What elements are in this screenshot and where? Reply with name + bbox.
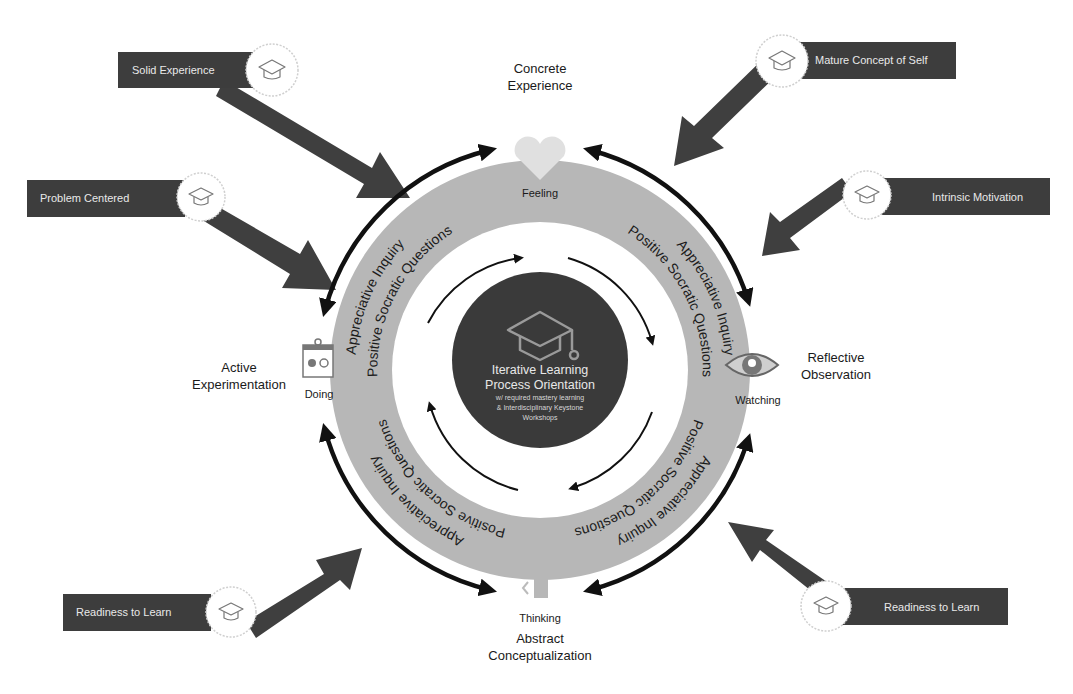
svg-text:Workshops: Workshops [523, 414, 558, 422]
svg-text:Experience: Experience [507, 78, 572, 93]
input-solid-experience: Solid Experience [118, 44, 298, 96]
svg-text:Conceptualization: Conceptualization [488, 648, 591, 663]
clipboard-icon [303, 339, 333, 377]
arrow-intrinsic-motivation [762, 178, 852, 256]
input-readiness-right: Readiness to Learn [801, 581, 1008, 631]
input-mature-concept: Mature Concept of Self [756, 35, 956, 87]
svg-text:Readiness to Learn: Readiness to Learn [884, 601, 979, 613]
input-readiness-left: Readiness to Learn [63, 587, 256, 637]
svg-text:Intrinsic Motivation: Intrinsic Motivation [932, 191, 1023, 203]
arrow-readiness-left [246, 548, 362, 638]
stage-active-experimentation: Doing Active Experimentation [192, 339, 333, 400]
svg-text:Mature Concept of Self: Mature Concept of Self [815, 54, 928, 66]
svg-text:Active: Active [221, 360, 256, 375]
svg-text:Reflective: Reflective [807, 350, 864, 365]
svg-text:Process Orientation: Process Orientation [485, 378, 595, 392]
svg-text:w/ required mastery learning: w/ required mastery learning [495, 394, 584, 402]
svg-text:Watching: Watching [735, 394, 780, 406]
svg-text:Doing: Doing [305, 388, 334, 400]
svg-text:Thinking: Thinking [519, 612, 561, 624]
svg-text:Solid Experience: Solid Experience [132, 64, 215, 76]
svg-text:Observation: Observation [801, 367, 871, 382]
svg-text:Abstract: Abstract [516, 631, 564, 646]
brain-icon [523, 578, 548, 598]
svg-text:Feeling: Feeling [522, 187, 558, 199]
svg-text:Problem Centered: Problem Centered [40, 192, 129, 204]
input-intrinsic-motivation: Intrinsic Motivation [843, 171, 1050, 219]
svg-text:Concrete: Concrete [514, 61, 567, 76]
svg-text:Readiness to Learn: Readiness to Learn [76, 606, 171, 618]
svg-text:Experimentation: Experimentation [192, 377, 286, 392]
learning-cycle-diagram: Solid Experience Problem Centered Mature… [0, 0, 1073, 694]
input-problem-centered: Problem Centered [27, 173, 225, 221]
stage-abstract-conceptualization: Thinking Abstract Conceptualization [488, 578, 591, 663]
svg-text:& Interdisciplinary Keystone: & Interdisciplinary Keystone [497, 404, 583, 412]
arrow-solid-experience [216, 80, 410, 198]
svg-text:Iterative Learning: Iterative Learning [492, 363, 589, 377]
